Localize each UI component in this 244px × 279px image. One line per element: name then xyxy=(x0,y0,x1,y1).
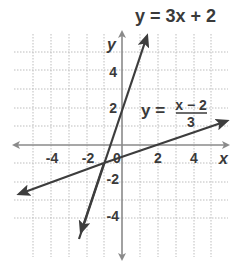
coordinate-plane-chart: -4 -2 0 2 4 4 2 -2 -4 x y y = 3x + 2 y =… xyxy=(0,0,244,279)
y-tick-label: -2 xyxy=(107,171,120,187)
line-y-3x-plus-2-tail xyxy=(82,163,104,229)
equation-2-numerator: x − 2 xyxy=(175,97,207,113)
y-tick-label: 4 xyxy=(109,64,117,80)
chart-svg: -4 -2 0 2 4 4 2 -2 -4 x y y = 3x + 2 y =… xyxy=(0,0,244,279)
x-tick-label: -2 xyxy=(82,150,95,166)
x-tick-label: 0 xyxy=(113,150,121,166)
x-tick-label: 2 xyxy=(154,150,162,166)
equation-2-lhs: y = xyxy=(141,101,165,120)
equation-label-1: y = 3x + 2 xyxy=(135,6,216,26)
y-axis-label: y xyxy=(106,36,117,53)
y-tick-label: 2 xyxy=(109,100,117,116)
equation-label-2: y = x − 2 3 xyxy=(141,97,207,130)
x-axis-label: x xyxy=(218,150,229,167)
x-tick-label: -4 xyxy=(46,150,59,166)
line-y-x-minus-2-over-3-tail xyxy=(22,163,104,193)
x-tick-label: 4 xyxy=(190,150,198,166)
equation-2-denominator: 3 xyxy=(187,114,195,130)
y-tick-label: -4 xyxy=(107,208,120,224)
